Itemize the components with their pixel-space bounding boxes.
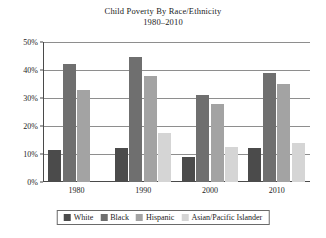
- chart-title: Child Poverty By Race/Ethnicity: [0, 6, 326, 17]
- legend-item[interactable]: Black: [100, 213, 129, 222]
- bar: [292, 143, 305, 182]
- legend-label: Asian/Pacific Islander: [191, 213, 262, 222]
- legend-swatch: [136, 214, 143, 221]
- bar-group: 1980: [43, 42, 110, 182]
- legend-item[interactable]: Hispanic: [136, 213, 174, 222]
- bar: [158, 133, 171, 182]
- y-tick-label: 50%: [23, 38, 38, 47]
- legend-item[interactable]: Asian/Pacific Islander: [181, 213, 262, 222]
- y-tick-label: 10%: [23, 150, 38, 159]
- bar: [182, 157, 195, 182]
- x-tick-label: 2010: [243, 186, 310, 195]
- bar: [144, 76, 157, 182]
- bar: [277, 84, 290, 182]
- chart-subtitle: 1980–2010: [0, 17, 326, 28]
- chart-legend: WhiteBlackHispanicAsian/Pacific Islander: [57, 210, 270, 225]
- legend-label: Hispanic: [146, 213, 174, 222]
- chart-figure: Child Poverty By Race/Ethnicity 1980–201…: [0, 0, 326, 238]
- bar: [196, 95, 209, 182]
- y-tick-label: 20%: [23, 122, 38, 131]
- bar: [77, 90, 90, 182]
- bar-group: 2010: [243, 42, 310, 182]
- legend-item[interactable]: White: [64, 213, 94, 222]
- x-tick-label: 1990: [110, 186, 177, 195]
- y-tick-label: 40%: [23, 66, 38, 75]
- bar-group: 2000: [177, 42, 244, 182]
- legend-swatch: [181, 214, 188, 221]
- bar: [48, 150, 61, 182]
- y-tick-label: 0%: [27, 178, 38, 187]
- bar: [225, 147, 238, 182]
- title-block: Child Poverty By Race/Ethnicity 1980–201…: [0, 6, 326, 28]
- legend-swatch: [100, 214, 107, 221]
- bar: [115, 148, 128, 182]
- legend-label: White: [74, 213, 94, 222]
- bar: [211, 104, 224, 182]
- x-tick-label: 2000: [177, 186, 244, 195]
- legend-label: Black: [110, 213, 129, 222]
- legend-swatch: [64, 214, 71, 221]
- y-tick-label: 30%: [23, 94, 38, 103]
- bar: [248, 148, 261, 182]
- bar: [129, 57, 142, 182]
- x-tick-label: 1980: [43, 186, 110, 195]
- bar: [263, 73, 276, 182]
- bar: [63, 64, 76, 182]
- bar-group: 1990: [110, 42, 177, 182]
- plot-area: 0%10%20%30%40%50% 1980199020002010: [43, 42, 310, 182]
